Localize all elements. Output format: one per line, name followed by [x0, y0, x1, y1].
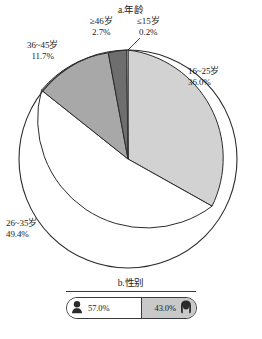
female-icon	[179, 300, 193, 316]
panel-b-divider	[66, 291, 196, 292]
pie-label-26-35: 26~35岁 49.4%	[6, 218, 37, 239]
gender-segment-female: 43.0%	[141, 298, 196, 318]
pie-label-46-plus-name: ≥46岁	[90, 16, 113, 26]
pie-label-36-45-name: 36~45岁	[27, 40, 58, 50]
gender-male-value: 57.0%	[88, 303, 109, 313]
pie-label-15-less: ≤15岁 0.2%	[137, 16, 160, 37]
pie-label-26-35-pct: 49.4%	[6, 229, 37, 240]
pie-label-36-45-pct: 11.7%	[27, 51, 58, 62]
pie-label-46-plus-pct: 2.7%	[90, 27, 113, 38]
pie-label-26-35-name: 26~35岁	[6, 218, 37, 228]
gender-female-value: 43.0%	[155, 303, 176, 313]
panel-b-caption: b.性别	[0, 275, 262, 289]
pie-label-15-less-name: ≤15岁	[137, 16, 160, 26]
pie-label-15-less-pct: 0.2%	[137, 27, 160, 38]
panel-gender: b.性别 57.0% 43.0%	[0, 272, 262, 339]
leader-line-15-less	[128, 38, 140, 50]
pie-label-16-25-pct: 36.0%	[188, 77, 219, 88]
pie-label-16-25: 16~25岁 36.0%	[188, 66, 219, 87]
pie-label-16-25-name: 16~25岁	[188, 66, 219, 76]
panel-age: a.年龄 16~25岁 36.0% 26~35岁 49.4%	[0, 0, 262, 272]
gender-segment-male: 57.0%	[67, 298, 141, 318]
gender-bar: 57.0% 43.0%	[66, 297, 197, 319]
figure-container: a.年龄 16~25岁 36.0% 26~35岁 49.4%	[0, 0, 262, 339]
pie-label-36-45: 36~45岁 11.7%	[27, 40, 58, 61]
pie-label-46-plus: ≥46岁 2.7%	[90, 16, 113, 37]
male-icon	[70, 300, 84, 316]
